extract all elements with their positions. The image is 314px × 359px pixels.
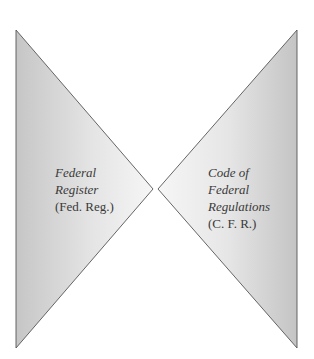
code-of-federal-regulations-label: Code of Federal Regulations (C. F. R.) bbox=[208, 164, 270, 232]
label-line: Federal bbox=[208, 181, 270, 198]
federal-register-label: Federal Register (Fed. Reg.) bbox=[55, 164, 114, 215]
federal-register-cfr-diagram: Federal Register (Fed. Reg.) Code of Fed… bbox=[0, 0, 314, 359]
label-line: Regulations bbox=[208, 198, 270, 215]
label-line: Code of bbox=[208, 164, 270, 181]
label-abbreviation: (C. F. R.) bbox=[208, 215, 270, 232]
label-line: Federal bbox=[55, 164, 114, 181]
label-line: Register bbox=[55, 181, 114, 198]
label-abbreviation: (Fed. Reg.) bbox=[55, 198, 114, 215]
